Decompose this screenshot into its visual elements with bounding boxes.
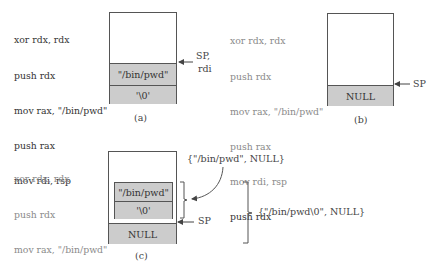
arrows-overlay bbox=[0, 0, 438, 276]
curved-arrow bbox=[192, 167, 223, 199]
small-brace bbox=[180, 182, 187, 218]
large-brace bbox=[243, 182, 252, 243]
